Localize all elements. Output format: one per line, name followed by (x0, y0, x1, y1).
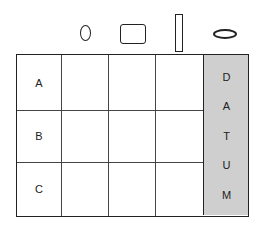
row-divider (17, 110, 203, 111)
column-divider (155, 55, 156, 216)
datum-letter-u: U (204, 159, 249, 171)
datum-letter-m: M (204, 189, 249, 201)
column-divider (61, 55, 62, 216)
row-label-b: B (17, 130, 61, 142)
column-divider (108, 55, 109, 216)
datum-letter-t: T (204, 130, 249, 142)
comparison-matrix: A B C D A T U M (16, 54, 249, 217)
datum-letter-d: D (204, 71, 249, 83)
datum-column: D A T U M (203, 55, 248, 215)
row-divider (17, 162, 203, 163)
row-label-a: A (17, 77, 61, 89)
flat-ellipse-shape-icon (213, 29, 237, 39)
datum-letter-a: A (204, 100, 249, 112)
oval-shape-icon (80, 25, 91, 41)
row-label-c: C (17, 183, 61, 195)
tall-bar-shape-icon (175, 14, 183, 52)
rectangle-shape-icon (120, 24, 146, 44)
